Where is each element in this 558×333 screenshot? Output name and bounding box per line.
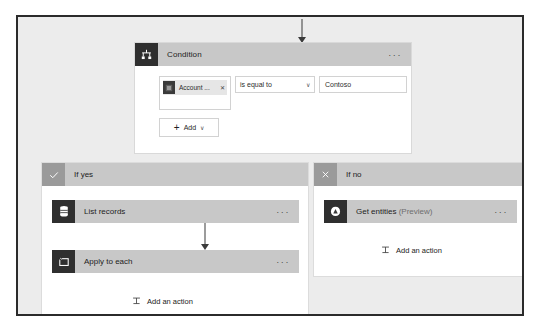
branch-if-yes: If yes List records ··· — [42, 163, 308, 316]
add-condition-button[interactable]: + Add ∨ — [159, 118, 219, 137]
token-remove-icon[interactable]: ✕ — [220, 84, 225, 91]
add-button-label: Add — [184, 124, 196, 131]
branch-if-no: If no Get entities (Preview) ··· — [314, 163, 524, 276]
action-overflow-menu[interactable]: ··· — [276, 207, 290, 216]
branch-if-yes-title: If yes — [74, 170, 93, 179]
connector-arrow-list-to-apply — [199, 223, 211, 250]
operator-value: is equal to — [240, 81, 272, 88]
condition-card[interactable]: Condition ··· Account ... ✕ — [135, 43, 411, 153]
condition-value-text: Contoso — [325, 81, 351, 88]
add-action-icon — [131, 296, 142, 307]
text-analytics-icon — [324, 200, 347, 223]
branch-if-yes-header[interactable]: If yes — [42, 163, 308, 186]
action-title: Get entities (Preview) — [356, 207, 432, 216]
condition-value-input[interactable]: Contoso — [319, 76, 407, 93]
token-label: Account ... — [179, 84, 210, 91]
chevron-down-icon: ∨ — [306, 81, 310, 88]
action-get-entities[interactable]: Get entities (Preview) ··· — [324, 200, 517, 223]
action-overflow-menu[interactable]: ··· — [494, 207, 508, 216]
action-overflow-menu[interactable]: ··· — [276, 257, 290, 266]
add-an-action-label: Add an action — [147, 297, 193, 306]
add-an-action-link-if-no[interactable]: Add an action — [380, 245, 442, 256]
condition-expression-row: Account ... ✕ is equal to ∨ Contoso — [159, 76, 411, 110]
branch-if-no-header[interactable]: If no — [314, 163, 524, 186]
chevron-down-icon: ∨ — [200, 124, 204, 131]
condition-title: Condition — [167, 50, 202, 59]
checkmark-icon — [42, 163, 65, 186]
action-list-records[interactable]: List records ··· — [52, 200, 299, 223]
condition-overflow-menu[interactable]: ··· — [388, 50, 402, 59]
plus-icon: + — [174, 123, 180, 133]
close-x-icon — [314, 163, 337, 186]
condition-left-operand-field[interactable]: Account ... ✕ — [159, 76, 231, 110]
database-icon — [52, 200, 75, 223]
branch-if-no-title: If no — [346, 170, 362, 179]
add-an-action-label: Add an action — [396, 246, 442, 255]
flow-canvas: Condition ··· Account ... ✕ — [16, 15, 524, 316]
action-title-text: Get entities — [356, 207, 399, 216]
condition-body: Account ... ✕ is equal to ∨ Contoso + Ad… — [135, 66, 411, 137]
loop-icon — [52, 250, 75, 273]
action-title: List records — [84, 207, 125, 216]
action-title: Apply to each — [84, 257, 132, 266]
condition-card-header[interactable]: Condition ··· — [135, 43, 411, 66]
dynamic-content-icon — [163, 81, 175, 94]
dynamic-content-token[interactable]: Account ... ✕ — [163, 80, 227, 95]
connector-arrow-to-condition — [296, 19, 308, 43]
action-preview-badge: (Preview) — [399, 207, 433, 216]
add-action-icon — [380, 245, 391, 256]
condition-branch-icon — [135, 43, 158, 66]
condition-operator-dropdown[interactable]: is equal to ∨ — [235, 76, 315, 93]
add-an-action-link-if-yes[interactable]: Add an action — [131, 296, 193, 307]
action-apply-to-each[interactable]: Apply to each ··· — [52, 250, 299, 273]
